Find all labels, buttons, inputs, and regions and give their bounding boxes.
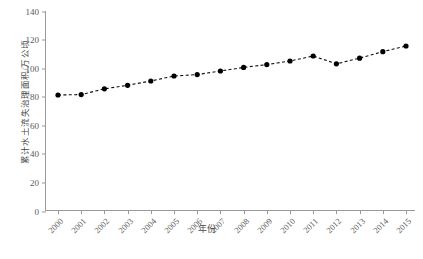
y-axis-tick-mark <box>42 182 46 183</box>
line-chart-svg: 2000: 81.22001: 81.52002: 85.52003: 8820… <box>46 11 416 211</box>
data-point-marker: 2001: 81.5 <box>79 92 84 97</box>
x-axis-title: 年份 <box>0 222 423 235</box>
y-axis-tick: 80 <box>6 96 46 97</box>
data-point-marker: 2014: 111.5 <box>380 49 385 54</box>
y-axis-tick-label: 40 <box>30 149 39 159</box>
x-axis-tick-mark <box>81 210 82 214</box>
data-line <box>58 46 406 95</box>
x-axis-tick-mark <box>383 210 384 214</box>
chart-figure: 累计水土流失治理面积/万公顷 2000: 81.22001: 81.52002:… <box>0 0 423 259</box>
y-axis-tick-label: 0 <box>35 206 40 216</box>
y-axis-tick-label: 140 <box>26 6 40 16</box>
y-axis-tick-label: 80 <box>30 92 39 102</box>
y-axis-tick: 140 <box>6 11 46 12</box>
x-axis-tick-mark <box>151 210 152 214</box>
y-axis-tick-label: 60 <box>30 120 39 130</box>
y-axis-tick: 100 <box>6 68 46 69</box>
x-axis-tick-mark <box>360 210 361 214</box>
y-axis-title: 累计水土流失治理面积/万公顷 <box>18 22 30 182</box>
data-point-marker: 2002: 85.5 <box>102 86 107 91</box>
y-axis-tick: 0 <box>6 211 46 212</box>
y-axis-tick-mark <box>42 40 46 41</box>
y-axis-tick-label: 100 <box>26 63 40 73</box>
x-axis-tick-mark <box>174 210 175 214</box>
x-axis-tick-mark <box>244 210 245 214</box>
y-axis-tick-mark <box>42 211 46 212</box>
data-point-marker: 2003: 88 <box>125 83 130 88</box>
x-axis-tick-mark <box>58 210 59 214</box>
data-point-marker: 2009: 102.5 <box>264 62 269 67</box>
y-axis-tick: 120 <box>6 39 46 40</box>
y-axis-tick-label: 120 <box>26 35 40 45</box>
y-axis-tick: 20 <box>6 182 46 183</box>
data-point-marker: 2007: 98 <box>218 68 223 73</box>
x-axis-tick-mark <box>197 210 198 214</box>
plot-area: 2000: 81.22001: 81.52002: 85.52003: 8820… <box>45 11 415 211</box>
x-axis-tick-mark <box>267 210 268 214</box>
x-axis-tick-mark <box>290 210 291 214</box>
y-axis-tick: 60 <box>6 125 46 126</box>
y-axis-tick-mark <box>42 11 46 12</box>
x-axis-tick-mark <box>336 210 337 214</box>
x-axis-tick-mark <box>313 210 314 214</box>
data-point-marker: 2013: 107 <box>357 56 362 61</box>
data-point-marker: 2012: 103 <box>334 61 339 66</box>
y-axis-tick-mark <box>42 97 46 98</box>
x-axis-title-text: 年份 <box>198 224 216 234</box>
data-point-marker: 2011: 108.5 <box>311 53 316 58</box>
y-axis-tick-mark <box>42 68 46 69</box>
data-point-marker: 2010: 105 <box>287 58 292 63</box>
y-axis-tick-mark <box>42 154 46 155</box>
x-axis-tick-mark <box>220 210 221 214</box>
x-axis-tick-mark <box>406 210 407 214</box>
x-axis-tick-mark <box>104 210 105 214</box>
data-point-marker: 2008: 100.5 <box>241 65 246 70</box>
data-point-marker: 2006: 95.5 <box>195 72 200 77</box>
data-point-marker: 2004: 91 <box>148 78 153 83</box>
data-point-marker: 2000: 81.2 <box>55 92 60 97</box>
data-point-marker: 2005: 94.5 <box>171 73 176 78</box>
y-axis-tick: 40 <box>6 153 46 154</box>
y-axis-tick-mark <box>42 125 46 126</box>
x-axis-tick-mark <box>128 210 129 214</box>
data-point-marker: 2015: 115.5 <box>403 43 408 48</box>
y-axis-tick-label: 20 <box>30 177 39 187</box>
